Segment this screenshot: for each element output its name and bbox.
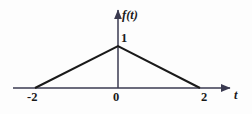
x-tick-label-zero: 0 (113, 91, 119, 104)
x-tick-label-two: 2 (201, 91, 207, 104)
y-tick-label-one: 1 (121, 32, 127, 45)
x-tick-label-neg-two: -2 (27, 91, 37, 104)
x-axis-label: t (234, 89, 237, 102)
triangular-pulse-figure: -2 0 2 1 t f(t) (0, 0, 252, 114)
y-axis-label: f(t) (122, 9, 138, 22)
